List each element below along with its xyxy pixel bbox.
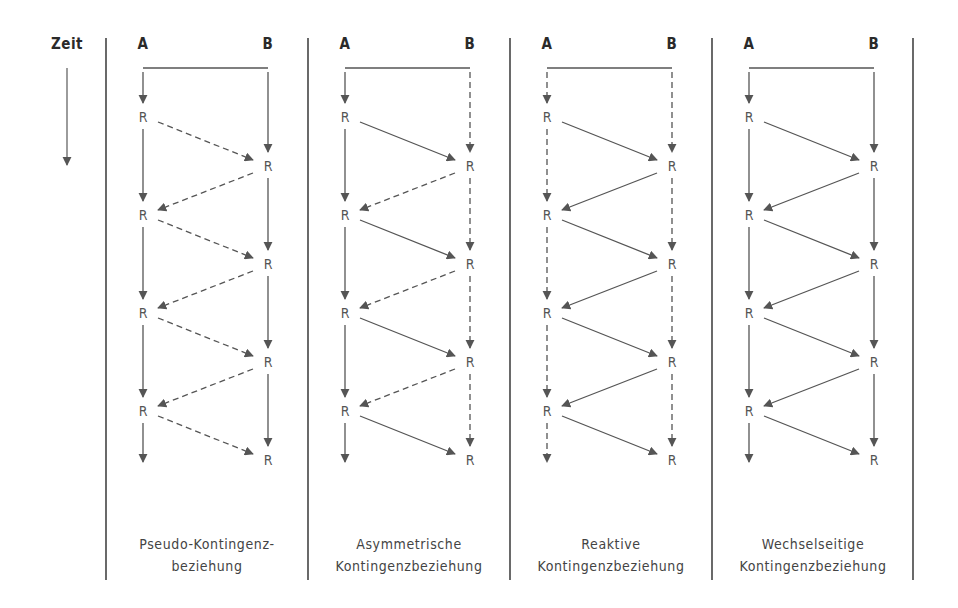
a-to-b-arrow (562, 122, 657, 160)
a-to-b-arrow (360, 416, 455, 454)
a-to-b-arrow (562, 416, 657, 454)
a-to-b-arrow (764, 416, 859, 454)
response-a: R (543, 403, 552, 419)
panel-caption-mutual: WechselseitigeKontingenzbeziehung (713, 533, 913, 577)
b-to-a-arrow (562, 271, 657, 308)
actor-a-label: A (138, 35, 149, 53)
actor-b-label: B (869, 35, 880, 53)
response-a: R (139, 207, 148, 223)
panel-pseudo (143, 68, 268, 462)
a-to-b-arrow (360, 318, 455, 356)
a-to-b-arrow (158, 416, 253, 454)
b-to-a-arrow (764, 369, 859, 406)
response-b: R (870, 158, 879, 174)
a-to-b-arrow (158, 220, 253, 258)
response-a: R (543, 305, 552, 321)
contingency-diagram: Zeit ABRRRRRRRRPseudo-Kontingenz-beziehu… (0, 0, 958, 608)
response-b: R (466, 158, 475, 174)
panel-caption-reactive: ReaktiveKontingenzbeziehung (511, 533, 711, 577)
response-a: R (139, 403, 148, 419)
response-a: R (139, 109, 148, 125)
actor-a-label: A (340, 35, 351, 53)
b-to-a-arrow (158, 271, 253, 308)
response-b: R (264, 452, 273, 468)
response-a: R (341, 403, 350, 419)
response-b: R (466, 256, 475, 272)
a-to-b-arrow (764, 220, 859, 258)
response-a: R (745, 403, 754, 419)
response-b: R (668, 452, 677, 468)
b-to-a-arrow (562, 369, 657, 406)
response-b: R (264, 354, 273, 370)
response-b: R (870, 354, 879, 370)
b-to-a-arrow (562, 173, 657, 210)
diagram-canvas (0, 0, 958, 608)
b-to-a-arrow (158, 369, 253, 406)
panels (143, 68, 874, 462)
response-b: R (668, 354, 677, 370)
b-to-a-arrow (360, 173, 455, 210)
panel-caption-asymmetric: AsymmetrischeKontingenzbeziehung (309, 533, 509, 577)
response-a: R (745, 207, 754, 223)
a-to-b-arrow (158, 318, 253, 356)
caption-line-1: Asymmetrische (309, 533, 509, 555)
response-a: R (745, 305, 754, 321)
b-to-a-arrow (360, 369, 455, 406)
panel-asymmetric (345, 68, 470, 462)
a-to-b-arrow (360, 220, 455, 258)
b-to-a-arrow (360, 271, 455, 308)
a-to-b-arrow (562, 318, 657, 356)
caption-line-2: Kontingenzbeziehung (511, 555, 711, 577)
response-b: R (466, 354, 475, 370)
actor-a-label: A (542, 35, 553, 53)
panel-dividers (106, 38, 913, 580)
response-a: R (543, 109, 552, 125)
response-b: R (870, 452, 879, 468)
b-to-a-arrow (764, 271, 859, 308)
a-to-b-arrow (158, 122, 253, 160)
response-a: R (745, 109, 754, 125)
actor-a-label: A (744, 35, 755, 53)
a-to-b-arrow (360, 122, 455, 160)
b-to-a-arrow (158, 173, 253, 210)
response-b: R (466, 452, 475, 468)
caption-line-1: Pseudo-Kontingenz- (107, 533, 307, 555)
actor-b-label: B (667, 35, 678, 53)
response-b: R (264, 256, 273, 272)
time-axis-label: Zeit (51, 35, 83, 53)
caption-line-2: Kontingenzbeziehung (309, 555, 509, 577)
response-a: R (543, 207, 552, 223)
a-to-b-arrow (764, 122, 859, 160)
caption-line-1: Wechselseitige (713, 533, 913, 555)
response-b: R (668, 158, 677, 174)
response-a: R (341, 305, 350, 321)
a-to-b-arrow (764, 318, 859, 356)
response-a: R (341, 207, 350, 223)
caption-line-2: Kontingenzbeziehung (713, 555, 913, 577)
b-to-a-arrow (764, 173, 859, 210)
panel-caption-pseudo: Pseudo-Kontingenz-beziehung (107, 533, 307, 577)
response-a: R (139, 305, 148, 321)
caption-line-1: Reaktive (511, 533, 711, 555)
response-a: R (341, 109, 350, 125)
actor-b-label: B (263, 35, 274, 53)
response-b: R (668, 256, 677, 272)
response-b: R (870, 256, 879, 272)
panel-mutual (749, 68, 874, 462)
panel-reactive (547, 68, 672, 462)
response-b: R (264, 158, 273, 174)
caption-line-2: beziehung (107, 555, 307, 577)
a-to-b-arrow (562, 220, 657, 258)
actor-b-label: B (465, 35, 476, 53)
